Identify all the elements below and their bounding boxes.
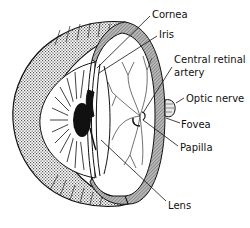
optic-nerve [165,100,175,117]
label-iris: Iris [159,29,174,40]
label-artery: artery [174,67,204,78]
label-central-retinal: Central retinal [174,54,246,65]
label-optic-nerve: Optic nerve [186,93,244,104]
label-lens: Lens [168,200,191,211]
retinal-vessels [108,56,152,168]
label-fovea: Fovea [181,119,211,130]
label-papilla: Papilla [180,142,213,153]
eye-diagram: Cornea Iris Central retinal artery Optic… [0,0,250,228]
sclera-cut [90,22,165,204]
label-cornea: Cornea [152,9,188,20]
papilla [133,112,145,126]
